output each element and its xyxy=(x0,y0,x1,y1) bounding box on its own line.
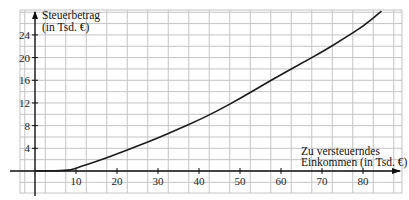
x-tick-label: 20 xyxy=(112,175,124,187)
x-tick-label: 70 xyxy=(317,175,329,187)
x-tick-label: 30 xyxy=(153,175,165,187)
y-tick-label: 8 xyxy=(25,120,31,132)
x-tick-label: 80 xyxy=(358,175,370,187)
y-tick-label: 4 xyxy=(25,142,31,154)
x-tick-label: 50 xyxy=(235,175,247,187)
tax-chart: 10203040506070804812162024 Steuerbetrag … xyxy=(0,0,409,200)
y-axis-label-line2: (in Tsd. €) xyxy=(42,21,89,34)
x-tick-label: 40 xyxy=(194,175,206,187)
y-tick-label: 20 xyxy=(19,52,31,64)
y-tick-label: 24 xyxy=(19,29,31,41)
x-tick-label: 60 xyxy=(276,175,288,187)
x-tick-label: 10 xyxy=(71,175,83,187)
y-tick-label: 16 xyxy=(19,74,31,86)
x-axis-label-line2: Einkommen (in Tsd. €) xyxy=(301,156,407,169)
y-tick-label: 12 xyxy=(19,97,30,109)
